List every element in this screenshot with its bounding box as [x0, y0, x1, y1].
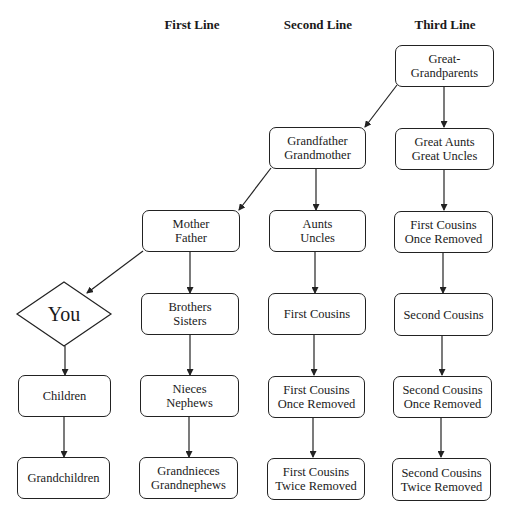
node-second-cousins-twice-removed: Second Cousins Twice Removed — [392, 458, 491, 501]
you-node: You — [17, 282, 111, 346]
node-grandchildren: Grandchildren — [17, 457, 110, 499]
node-great-grandparents: Great- Grandparents — [395, 45, 494, 87]
node-second-cousins-once-removed: Second Cousins Once Removed — [393, 376, 492, 418]
node-parents: Mother Father — [142, 210, 240, 252]
node-first-cousins: First Cousins — [268, 293, 366, 335]
node-great-aunts-uncles: Great Aunts Great Uncles — [395, 128, 494, 170]
node-grandparents: Grandfather Grandmother — [269, 127, 366, 169]
node-second-cousins: Second Cousins — [394, 293, 493, 336]
node-first-cousins-once-removed-up: First Cousins Once Removed — [394, 211, 493, 253]
node-first-cousins-once-removed-down: First Cousins Once Removed — [268, 376, 365, 418]
node-aunts-uncles: Aunts Uncles — [269, 210, 366, 252]
node-grandnieces-grandnephews: Grandnieces Grandnephews — [139, 457, 238, 499]
node-nieces-nephews: Nieces Nephews — [140, 375, 239, 417]
node-children: Children — [18, 375, 111, 417]
node-first-cousins-twice-removed: First Cousins Twice Removed — [267, 458, 365, 500]
node-siblings: Brothers Sisters — [141, 293, 239, 335]
